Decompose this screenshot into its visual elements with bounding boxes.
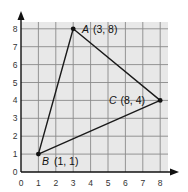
y-tick: 1	[13, 149, 18, 159]
label-b-coords: (1, 1)	[54, 155, 79, 167]
y-axis-arrow-icon	[18, 11, 25, 20]
grid-background	[21, 22, 168, 172]
y-tick: 2	[13, 131, 18, 141]
x-tick: 3	[71, 178, 76, 188]
x-tick: 0	[19, 178, 24, 188]
x-tick: 4	[88, 178, 93, 188]
point-b	[36, 152, 41, 157]
coordinate-plane: 0 1 2 3 4 5 6 7 8 0 1 2 3 4 5 6 7 8 A (3…	[0, 0, 188, 192]
label-a: A (3, 8)	[81, 23, 117, 35]
point-a	[71, 26, 76, 31]
y-tick: 7	[13, 42, 18, 52]
label-c-name: C	[109, 94, 117, 106]
y-tick: 6	[13, 60, 18, 70]
y-tick: 8	[13, 24, 18, 34]
x-tick: 7	[140, 178, 145, 188]
x-tick-labels: 0 1 2 3 4 5 6 7 8	[19, 178, 163, 188]
x-tick: 5	[106, 178, 111, 188]
x-tick: 8	[158, 178, 163, 188]
y-tick: 4	[13, 95, 18, 105]
label-c-coords: (8, 4)	[121, 94, 146, 106]
y-tick: 5	[13, 78, 18, 88]
label-b-name: B	[42, 155, 49, 167]
label-b: B (1, 1)	[42, 155, 78, 167]
point-c	[158, 98, 163, 103]
x-tick: 2	[53, 178, 58, 188]
x-tick: 1	[36, 178, 41, 188]
x-tick: 6	[123, 178, 128, 188]
y-tick-labels: 0 1 2 3 4 5 6 7 8	[13, 24, 18, 177]
x-axis-arrow-icon	[170, 169, 179, 176]
label-a-coords: (3, 8)	[93, 23, 118, 35]
y-tick: 3	[13, 113, 18, 123]
label-a-name: A	[81, 23, 89, 35]
y-tick: 0	[13, 167, 18, 177]
label-c: C (8, 4)	[109, 94, 145, 106]
